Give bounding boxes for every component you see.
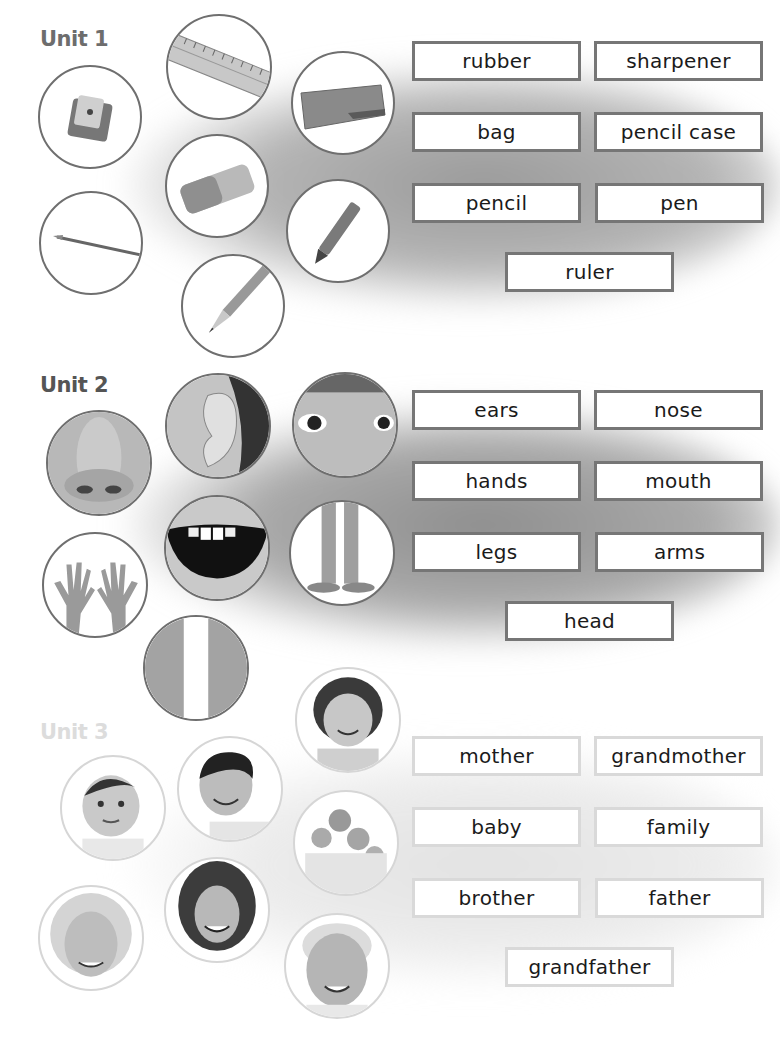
word-card[interactable]: bag [412,112,581,152]
word-label: grandfather [528,955,650,979]
word-label: grandmother [611,744,746,768]
picture-boy [177,736,283,842]
picture-ruler [166,14,272,120]
picture-sharpener [38,65,142,169]
grandfather-photo-icon [286,915,388,1017]
unit-heading: Unit 3 [40,720,108,744]
word-card[interactable]: pencil [412,183,581,223]
word-label: ears [474,398,518,422]
eyes-photo-icon [294,374,396,476]
word-label: rubber [462,49,531,73]
word-label: hands [465,469,527,493]
word-label: pencil [466,191,528,215]
picture-arms [143,615,249,721]
word-card[interactable]: head [505,601,674,641]
grandmother-photo-icon [40,887,142,989]
nose-photo-icon [48,412,150,514]
picture-eyes [292,372,398,478]
word-label: nose [654,398,703,422]
mother-photo-icon [166,859,268,961]
word-label: father [648,886,710,910]
word-card[interactable]: mouth [594,461,763,501]
word-label: pencil case [621,120,736,144]
picture-family [293,790,399,896]
word-card[interactable]: hands [412,461,581,501]
word-card[interactable]: father [595,878,764,918]
word-card[interactable]: grandmother [594,736,763,776]
word-label: bag [477,120,516,144]
girl-photo-icon [297,669,399,771]
word-card[interactable]: grandfather [505,947,674,987]
ear-photo-icon [167,375,269,477]
sharpener-icon [40,67,140,167]
word-label: mouth [645,469,711,493]
legs-photo-icon [291,502,393,604]
word-label: family [647,815,711,839]
hands-photo-icon [44,534,146,636]
word-card[interactable]: sharpener [594,41,763,81]
word-card[interactable]: baby [412,807,581,847]
word-card[interactable]: legs [412,532,581,572]
pencil-case-icon [293,53,393,153]
picture-ear [165,373,271,479]
crayon-icon [288,181,388,281]
word-label: ruler [565,260,613,284]
picture-pencil [181,254,285,358]
word-card[interactable]: arms [595,532,764,572]
word-card[interactable]: pen [595,183,764,223]
picture-nose [46,410,152,516]
picture-girl [295,667,401,773]
picture-legs [289,500,395,606]
pencil-icon [183,256,283,356]
family-photo-icon [295,792,397,894]
word-card[interactable]: rubber [412,41,581,81]
word-label: legs [475,540,517,564]
arms-photo-icon [145,617,247,719]
unit-heading: Unit 1 [40,27,108,51]
boy-photo-icon [179,738,281,840]
word-label: sharpener [626,49,730,73]
word-card[interactable]: family [594,807,763,847]
ruler-icon [168,16,270,118]
word-label: brother [459,886,535,910]
word-card[interactable]: mother [412,736,581,776]
picture-baby [60,755,166,861]
word-card[interactable]: pencil case [594,112,763,152]
picture-rubber [165,134,269,238]
picture-pen [39,191,143,295]
unit-heading: Unit 2 [40,373,108,397]
word-card[interactable]: brother [412,878,581,918]
pen-icon [41,193,141,293]
picture-hands [42,532,148,638]
picture-pencil-case [291,51,395,155]
baby-photo-icon [62,757,164,859]
picture-mouth [164,495,270,601]
picture-crayon [286,179,390,283]
word-label: mother [459,744,534,768]
picture-grandmother [38,885,144,991]
rubber-icon [167,136,267,236]
word-label: baby [471,815,522,839]
mouth-photo-icon [166,497,268,599]
word-card[interactable]: nose [594,390,763,430]
word-label: arms [654,540,705,564]
word-card[interactable]: ruler [505,252,674,292]
word-label: pen [660,191,699,215]
word-card[interactable]: ears [412,390,581,430]
picture-grandfather [284,913,390,1019]
word-label: head [564,609,615,633]
picture-mother [164,857,270,963]
